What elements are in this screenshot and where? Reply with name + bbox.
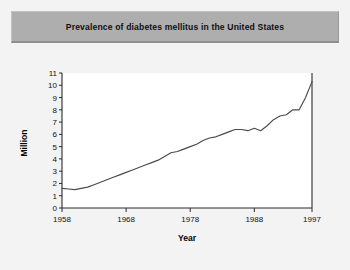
x-axis-ticks: 19581968197819881997 bbox=[53, 208, 321, 224]
plot-area: 01234567891011 19581968197819881997 Mill… bbox=[0, 55, 350, 270]
x-tick-label: 1978 bbox=[181, 215, 199, 224]
y-tick-label: 6 bbox=[53, 130, 58, 139]
y-tick-label: 2 bbox=[53, 179, 58, 188]
x-axis-label: Year bbox=[178, 233, 197, 243]
x-tick-label: 1988 bbox=[245, 215, 263, 224]
y-tick-label: 10 bbox=[48, 81, 57, 90]
y-tick-label: 8 bbox=[53, 106, 58, 115]
chart-title-banner: Prevalence of diabetes mellitus in the U… bbox=[11, 11, 339, 43]
y-tick-label: 0 bbox=[53, 204, 58, 213]
y-tick-label: 11 bbox=[49, 69, 58, 78]
y-axis-ticks: 01234567891011 bbox=[48, 69, 62, 213]
y-tick-label: 5 bbox=[53, 143, 58, 152]
y-axis-label: Million bbox=[19, 129, 29, 156]
chart-figure: Prevalence of diabetes mellitus in the U… bbox=[0, 0, 350, 270]
x-tick-label: 1997 bbox=[303, 215, 321, 224]
y-tick-label: 3 bbox=[53, 167, 58, 176]
plot-background bbox=[62, 73, 312, 208]
page-title: Prevalence of diabetes mellitus in the U… bbox=[66, 22, 284, 32]
y-tick-label: 9 bbox=[53, 94, 58, 103]
x-tick-label: 1968 bbox=[117, 215, 135, 224]
x-tick-label: 1958 bbox=[53, 215, 71, 224]
y-tick-label: 4 bbox=[53, 155, 58, 164]
y-tick-label: 1 bbox=[53, 192, 58, 201]
y-tick-label: 7 bbox=[53, 118, 58, 127]
line-chart-svg: 01234567891011 19581968197819881997 Mill… bbox=[0, 55, 350, 270]
